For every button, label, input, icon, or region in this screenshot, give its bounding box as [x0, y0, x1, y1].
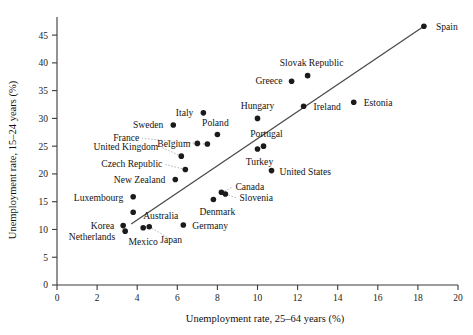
data-point	[130, 209, 136, 215]
data-point	[179, 153, 185, 159]
data-point	[120, 223, 126, 229]
x-tick-label: 6	[175, 293, 180, 303]
point-label: Sweden	[133, 119, 164, 130]
point-label: Mexico	[129, 236, 159, 247]
point-label: Slovenia	[239, 192, 273, 203]
y-tick-label: 0	[43, 280, 48, 290]
scatter-chart: 02468101214161820051015202530354045 Spai…	[0, 0, 473, 335]
point-label: Denmark	[200, 206, 236, 217]
point-label: Spain	[436, 21, 458, 32]
x-tick-label: 12	[293, 293, 303, 303]
x-tick-label: 18	[413, 293, 423, 303]
data-point	[305, 73, 311, 79]
x-tick-label: 14	[333, 293, 343, 303]
point-label: United Kingdom	[94, 141, 159, 152]
data-point	[255, 146, 261, 152]
y-tick-label: 10	[39, 225, 49, 235]
data-point	[351, 100, 357, 106]
x-tick-label: 8	[215, 293, 220, 303]
point-label: Greece	[255, 75, 282, 86]
data-point	[211, 197, 217, 203]
data-point	[140, 225, 146, 231]
data-point	[205, 141, 211, 147]
point-label: Korea	[91, 220, 115, 231]
x-tick-label: 2	[95, 293, 100, 303]
y-tick-label: 25	[39, 142, 49, 152]
x-axis-title: Unemployment rate, 25–64 years (%)	[186, 313, 345, 325]
chart-canvas: 02468101214161820051015202530354045 Spai…	[0, 0, 473, 335]
point-label: Netherlands	[69, 231, 116, 242]
point-label: Hungary	[241, 100, 275, 111]
point-label: Belgium	[157, 138, 191, 149]
y-axis-title: Unemployment rate, 15–24 years (%)	[7, 80, 19, 239]
data-point	[146, 224, 152, 230]
y-tick-label: 40	[39, 58, 49, 68]
point-labels-layer: SpainSlovak RepublicGreeceEstoniaIreland…	[69, 21, 458, 247]
data-point	[170, 122, 176, 128]
point-label: Japan	[160, 234, 182, 245]
point-label: Estonia	[364, 97, 394, 108]
point-label: Canada	[235, 181, 265, 192]
data-point	[201, 110, 207, 116]
point-label: Portugal	[250, 128, 283, 139]
point-label: United States	[280, 166, 332, 177]
data-point	[130, 194, 136, 200]
data-point	[195, 141, 201, 147]
data-point	[421, 23, 427, 29]
point-label: Turkey	[246, 156, 274, 167]
data-point	[269, 168, 275, 174]
data-point	[215, 132, 221, 138]
point-label: Italy	[176, 107, 194, 118]
y-tick-label: 45	[39, 31, 49, 41]
point-label: Poland	[202, 117, 229, 128]
data-point	[181, 222, 187, 228]
data-point	[122, 228, 128, 234]
x-tick-label: 0	[55, 293, 60, 303]
data-point	[223, 191, 229, 197]
data-point	[301, 103, 307, 109]
y-tick-label: 30	[39, 114, 49, 124]
data-point	[255, 116, 261, 122]
point-label: Ireland	[314, 101, 341, 112]
x-tick-label: 4	[135, 293, 140, 303]
x-tick-label: 10	[253, 293, 263, 303]
x-tick-label: 20	[453, 293, 463, 303]
point-label: Slovak Republic	[280, 57, 344, 68]
data-point	[183, 167, 189, 173]
point-label: Luxembourg	[74, 192, 124, 203]
y-tick-label: 5	[43, 253, 48, 263]
data-point	[261, 143, 267, 149]
leader-line	[165, 164, 185, 169]
y-tick-label: 15	[39, 197, 49, 207]
y-tick-label: 20	[39, 169, 49, 179]
point-label: Australia	[143, 210, 179, 221]
point-label: New Zealand	[114, 174, 166, 185]
point-label: Germany	[192, 220, 228, 231]
data-point	[172, 177, 178, 183]
x-tick-label: 16	[373, 293, 383, 303]
y-tick-label: 35	[39, 86, 49, 96]
data-point	[289, 78, 295, 84]
point-label: Czech Republic	[101, 158, 162, 169]
